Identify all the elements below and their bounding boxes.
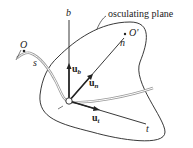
un-label: un [89,77,99,90]
tangent-axis-label: t [146,123,149,134]
osculating-plane-diagram: O s O' b n t ub un ut osculating plane [0,0,193,148]
ub-label: ub [72,63,82,76]
origin-label: O [20,39,27,50]
particle-path-curve [17,53,153,103]
origin-point-O [23,50,26,53]
normal-axis-label: n [120,37,125,48]
s-tick-end [58,106,63,109]
particle-point [66,98,72,104]
binormal-axis-label: b [66,7,71,18]
ub-arrowhead-icon [67,63,72,69]
osculating-plane-label: osculating plane [108,8,174,19]
center-label: O' [129,27,139,38]
un-vector [69,77,90,101]
ut-label: ut [92,112,101,125]
center-point-O-prime [124,33,126,35]
arc-length-label: s [33,57,37,68]
